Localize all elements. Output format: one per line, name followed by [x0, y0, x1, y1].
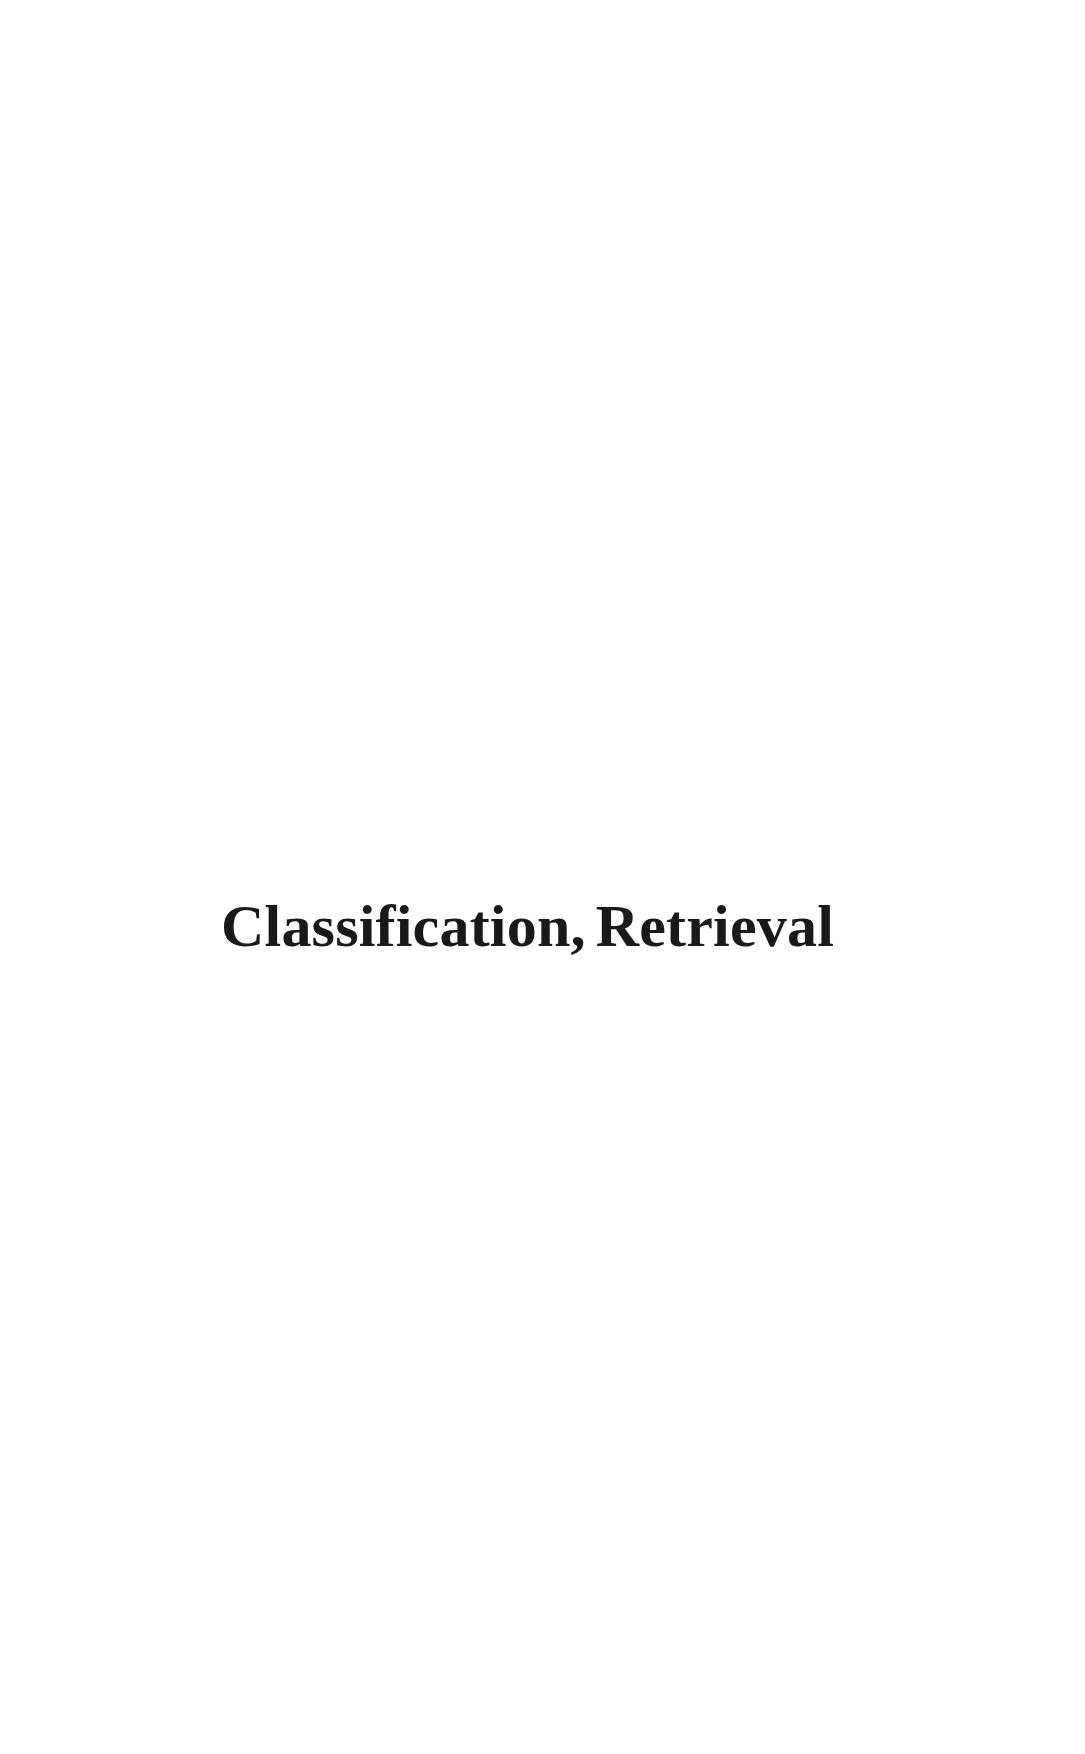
- section-title-word-space: [586, 896, 596, 956]
- page-title: Classification, Retrieval: [221, 896, 834, 956]
- section-title-first-part: Classification,: [221, 893, 586, 959]
- document-page: Classification, Retrieval: [0, 0, 1085, 1754]
- section-title-block: Classification, Retrieval: [0, 856, 1085, 996]
- section-title-second-part: Retrieval: [596, 893, 834, 959]
